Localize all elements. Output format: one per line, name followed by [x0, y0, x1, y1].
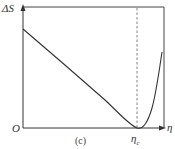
chart-plot	[0, 0, 175, 149]
origin-label: O	[12, 123, 20, 134]
x-axis-arrow-icon	[159, 126, 166, 131]
figure-caption: (c)	[75, 136, 86, 146]
x-axis-label: η	[167, 122, 172, 133]
delta-s-curve	[23, 29, 162, 128]
critical-point-label: ηc	[131, 133, 140, 147]
y-axis-label: ΔS	[2, 3, 14, 14]
critical-point-sub: c	[136, 139, 139, 147]
